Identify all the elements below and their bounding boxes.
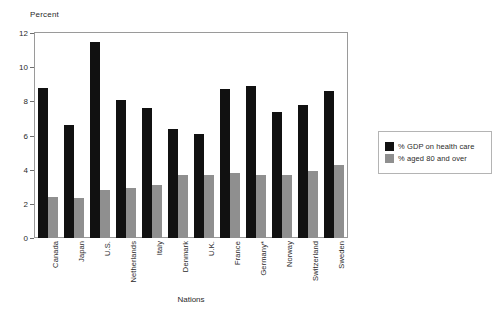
legend-color-swatch — [385, 142, 394, 151]
bar — [298, 105, 308, 238]
bar — [126, 188, 136, 238]
bar-group — [116, 33, 136, 238]
bar — [100, 190, 110, 238]
bar — [324, 91, 334, 238]
bar — [230, 173, 240, 238]
y-axis-tick-label: 2 — [0, 199, 28, 208]
chart-legend: % GDP on health care% aged 80 and over — [378, 131, 492, 174]
y-axis-tick-mark — [30, 238, 34, 239]
bar-group — [194, 33, 214, 238]
bar — [282, 175, 292, 238]
y-axis-tick-mark — [30, 170, 34, 171]
y-axis-tick-mark — [30, 67, 34, 68]
x-axis-tick-label: Netherlands — [129, 241, 138, 283]
bar — [204, 175, 214, 238]
x-axis-tick-label: Germany* — [259, 241, 268, 276]
bar — [256, 175, 266, 238]
bar — [178, 175, 188, 238]
bar-group — [324, 33, 344, 238]
bar-group — [220, 33, 240, 238]
bar-group — [168, 33, 188, 238]
bar — [48, 197, 58, 238]
bar — [64, 125, 74, 238]
x-axis-tick-label: U.K. — [207, 241, 216, 256]
legend-label: % GDP on health care — [398, 142, 475, 151]
x-axis-tick-label: Denmark — [181, 241, 190, 272]
legend-label: % aged 80 and over — [398, 154, 467, 163]
y-axis-tick-label: 10 — [0, 63, 28, 72]
bar — [272, 112, 282, 238]
y-axis-tick-mark — [30, 33, 34, 34]
x-axis-tick-label: Sweden — [337, 241, 346, 269]
x-axis-tick-label: Switzerland — [311, 241, 320, 281]
y-axis-tick-label: 6 — [0, 131, 28, 140]
bar-group — [298, 33, 318, 238]
y-axis-tick-mark — [30, 136, 34, 137]
bar-group — [246, 33, 266, 238]
x-axis-tick-label: Canada — [51, 241, 60, 268]
bar — [152, 185, 162, 238]
plot-area — [35, 33, 347, 238]
bar — [38, 88, 48, 238]
bar — [334, 165, 344, 238]
y-axis-title: Percent — [30, 10, 59, 19]
bar-group — [38, 33, 58, 238]
bar — [308, 171, 318, 238]
y-axis-tick-label: 12 — [0, 29, 28, 38]
bar-group — [142, 33, 162, 238]
x-axis-tick-label: France — [233, 241, 242, 265]
x-axis-tick-label: Japan — [77, 241, 86, 262]
x-axis-tick-label: Norway — [285, 241, 294, 267]
y-axis-tick-mark — [30, 101, 34, 102]
legend-color-swatch — [385, 154, 394, 163]
bar — [194, 134, 204, 238]
bar-group — [90, 33, 110, 238]
legend-item: % GDP on health care — [385, 142, 485, 151]
bar — [220, 89, 230, 238]
x-axis-title: Nations — [0, 295, 382, 304]
bar — [246, 86, 256, 238]
bar — [74, 198, 84, 238]
bar — [116, 100, 126, 238]
bar — [142, 108, 152, 238]
bar-chart-figure: Percent 024681012 CanadaJapanU.S.Netherl… — [0, 0, 497, 316]
y-axis-tick-mark — [30, 204, 34, 205]
bar-group — [64, 33, 84, 238]
legend-item: % aged 80 and over — [385, 154, 485, 163]
bar-group — [272, 33, 292, 238]
bar — [90, 42, 100, 238]
bar — [168, 129, 178, 238]
x-axis-tick-label: U.S. — [103, 241, 112, 256]
y-axis-tick-label: 4 — [0, 165, 28, 174]
y-axis-tick-label: 0 — [0, 234, 28, 243]
y-axis-tick-label: 8 — [0, 97, 28, 106]
x-axis-tick-label: Italy — [155, 241, 164, 255]
